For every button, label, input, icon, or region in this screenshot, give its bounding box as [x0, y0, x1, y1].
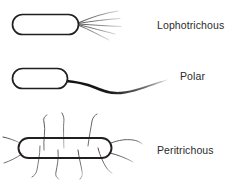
label-polar: Polar	[180, 70, 205, 82]
cell-body-polar	[13, 69, 68, 89]
cell-body-lophotrichous	[13, 15, 79, 35]
bacteria-flagella-diagram: Lophotrichous Polar Peritrichous	[0, 0, 234, 184]
specimen-lophotrichous	[13, 11, 122, 40]
specimen-polar	[13, 69, 169, 95]
label-peritrichous: Peritrichous	[157, 144, 214, 156]
flagella-tuft-lophotrichous	[78, 11, 121, 40]
flagellum-polar	[64, 79, 168, 94]
specimen-peritrichous	[3, 113, 142, 179]
label-lophotrichous: Lophotrichous	[157, 19, 224, 31]
flagella-peritrichous	[3, 113, 142, 179]
